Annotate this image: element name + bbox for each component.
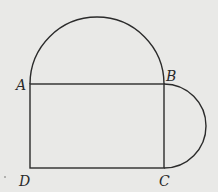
label-b: B [165, 68, 176, 84]
label-a: A [14, 77, 26, 93]
label-d: D [18, 173, 30, 189]
semicircle-bc [164, 84, 206, 168]
rectangle-abcd [30, 84, 164, 168]
geometry-figure: A B C D [0, 0, 218, 192]
label-c: C [159, 173, 170, 189]
diagram-canvas: A B C D [0, 0, 218, 192]
scan-speck [4, 176, 6, 178]
semicircle-ab [30, 17, 164, 84]
